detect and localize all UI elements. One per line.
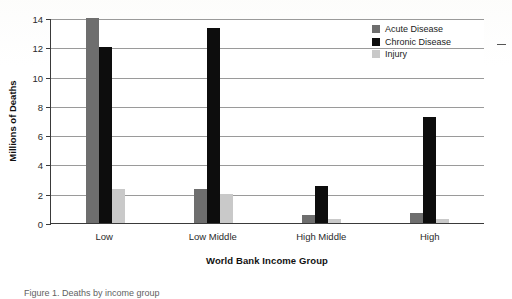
bar-chronic <box>315 186 328 223</box>
figure-bar-chart: Millions of Deaths 02468101214 LowLow Mi… <box>0 0 512 299</box>
legend-item: Acute Disease <box>372 24 451 34</box>
y-axis-tick <box>46 224 51 225</box>
legend-swatch-injury <box>372 50 380 58</box>
legend-swatch-chronic <box>372 38 380 46</box>
legend-swatch-acute <box>372 25 380 33</box>
y-axis-tick-label: 14 <box>32 14 43 25</box>
legend-item: Chronic Disease <box>372 37 451 47</box>
bar-chronic <box>423 117 436 223</box>
bar-injury <box>112 189 125 223</box>
y-axis-tick-label: 4 <box>38 160 43 171</box>
bar-acute <box>302 215 315 223</box>
legend-item-label: Injury <box>385 49 407 59</box>
legend-item-label: Acute Disease <box>385 24 443 34</box>
y-axis-tick-label: 10 <box>32 72 43 83</box>
bar-group <box>51 19 159 223</box>
y-axis-tick-label: 0 <box>38 219 43 230</box>
bar-injury <box>436 219 449 223</box>
bar-acute <box>194 189 207 223</box>
bar-injury <box>220 194 233 223</box>
y-axis-title: Millions of Deaths <box>7 46 18 196</box>
bar-group <box>268 19 376 223</box>
y-axis-tick-label: 8 <box>38 101 43 112</box>
x-axis-category-label: High <box>376 231 485 242</box>
bar-acute <box>86 18 99 223</box>
y-axis-tick-label: 2 <box>38 189 43 200</box>
figure-caption: Figure 1. Deaths by income group <box>24 288 494 299</box>
x-axis-category-label: High Middle <box>267 231 376 242</box>
chart-legend: Acute DiseaseChronic DiseaseInjury <box>372 24 451 59</box>
bar-group <box>159 19 267 223</box>
legend-item: Injury <box>372 49 451 59</box>
x-axis-title: World Bank Income Group <box>50 255 484 266</box>
legend-item-label: Chronic Disease <box>385 37 451 47</box>
y-axis-tick-label: 6 <box>38 131 43 142</box>
y-axis-tick-label: 12 <box>32 43 43 54</box>
legend-stray-dash-artifact <box>497 44 506 45</box>
x-axis-category-label: Low <box>50 231 159 242</box>
bar-injury <box>328 219 341 223</box>
bar-acute <box>410 213 423 223</box>
bar-chronic <box>207 28 220 223</box>
x-axis-category-label: Low Middle <box>159 231 268 242</box>
bar-chronic <box>99 47 112 223</box>
x-axis-tick-labels: LowLow MiddleHigh MiddleHigh <box>50 231 484 242</box>
